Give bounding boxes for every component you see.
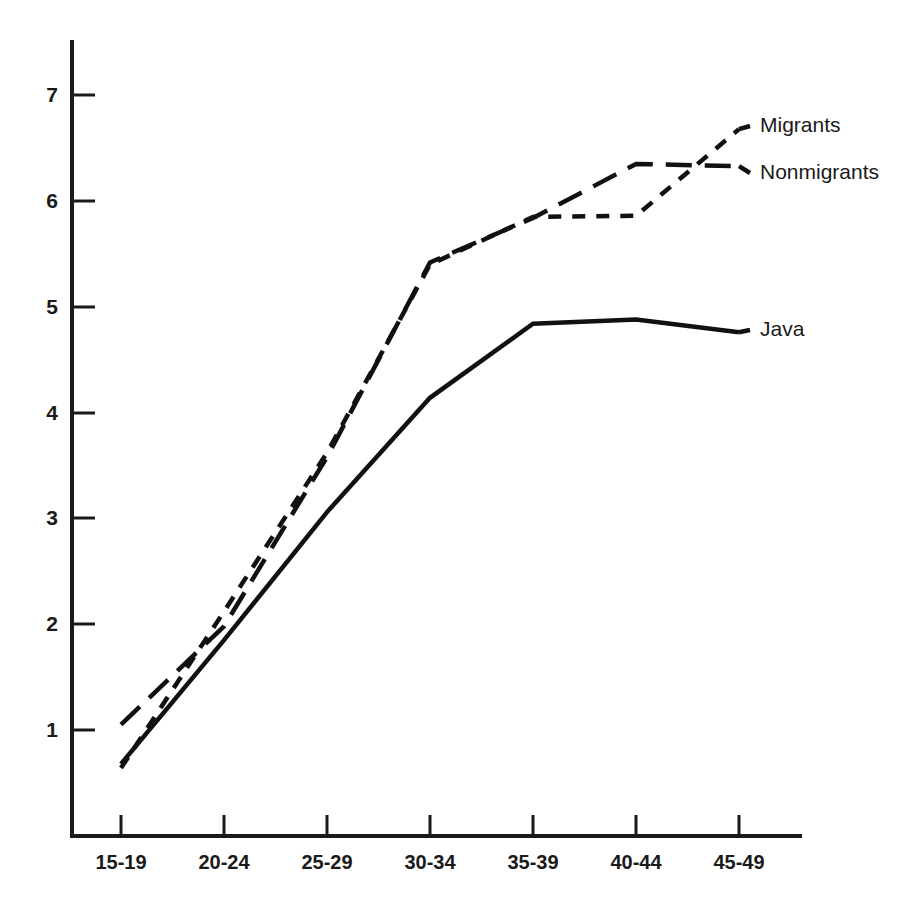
- x-axis-tick-labels: 15-19 20-24 25-29 30-34 35-39 40-44 45-4…: [95, 851, 764, 873]
- y-tick-label-5: 5: [46, 295, 58, 318]
- series-label-java: Java: [760, 317, 805, 340]
- series-group: [121, 129, 739, 768]
- series-line-nonmigrants: [121, 164, 739, 725]
- y-tick-label-3: 3: [46, 506, 58, 529]
- y-axis-ticks: [72, 95, 95, 730]
- y-tick-label-6: 6: [46, 189, 58, 212]
- x-tick-label-30-34: 30-34: [404, 851, 456, 873]
- x-tick-label-45-49: 45-49: [713, 851, 764, 873]
- series-labels: Migrants Nonmigrants Java: [760, 113, 879, 340]
- series-line-java: [121, 320, 739, 764]
- x-tick-label-40-44: 40-44: [610, 851, 662, 873]
- leader-java: [739, 330, 750, 332]
- x-axis-ticks: [121, 815, 739, 836]
- x-tick-label-15-19: 15-19: [95, 851, 146, 873]
- y-axis-tick-labels: 7 6 5 4 3 2 1: [46, 83, 58, 741]
- series-line-migrants: [121, 129, 739, 768]
- series-label-migrants: Migrants: [760, 113, 841, 136]
- y-tick-label-4: 4: [46, 401, 58, 424]
- leader-migrants: [739, 126, 750, 129]
- y-tick-label-2: 2: [46, 612, 58, 635]
- x-tick-label-25-29: 25-29: [301, 851, 352, 873]
- y-tick-label-7: 7: [46, 83, 58, 106]
- x-tick-label-35-39: 35-39: [507, 851, 558, 873]
- chart-canvas: 7 6 5 4 3 2 1 15-19 20-24 25-29 30-34 35…: [0, 0, 897, 914]
- leader-nonmigrants: [739, 166, 750, 173]
- line-chart: 7 6 5 4 3 2 1 15-19 20-24 25-29 30-34 35…: [0, 0, 897, 914]
- y-tick-label-1: 1: [46, 718, 58, 741]
- series-label-nonmigrants: Nonmigrants: [760, 160, 879, 183]
- x-tick-label-20-24: 20-24: [198, 851, 250, 873]
